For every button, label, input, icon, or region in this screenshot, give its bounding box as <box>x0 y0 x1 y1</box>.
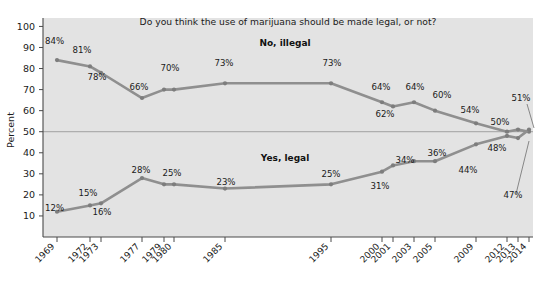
y-axis-title: Percent <box>5 112 16 148</box>
data-point <box>380 170 384 174</box>
data-point <box>527 128 531 132</box>
point-value-label: 84% <box>45 36 64 46</box>
series-label-no-illegal: No, illegal <box>259 38 310 48</box>
point-value-label: 62% <box>375 109 394 119</box>
data-point <box>433 159 437 163</box>
y-tick-label-80: 80 <box>23 63 35 74</box>
point-value-label: 50% <box>490 117 509 127</box>
data-point <box>474 121 478 125</box>
data-point <box>505 130 509 134</box>
series-label-yes-legal: Yes, legal <box>260 153 310 163</box>
data-point <box>433 109 437 113</box>
data-point <box>162 87 166 91</box>
point-value-label: 81% <box>72 45 91 55</box>
data-point <box>99 201 103 205</box>
point-value-label: 64% <box>371 82 390 92</box>
point-value-label: 16% <box>92 207 111 217</box>
point-value-label: 60% <box>432 90 451 100</box>
plot-area-background <box>43 18 533 237</box>
data-point <box>516 128 520 132</box>
data-point <box>505 134 509 138</box>
point-value-label: 73% <box>214 58 233 68</box>
data-point <box>223 186 227 190</box>
y-tick-label-50: 50 <box>23 126 35 137</box>
data-point <box>88 64 92 68</box>
point-value-label: 12% <box>45 203 64 213</box>
point-value-label: 28% <box>131 165 150 175</box>
y-tick-label-20: 20 <box>23 189 35 200</box>
data-point <box>172 182 176 186</box>
point-value-label: 25% <box>162 168 181 178</box>
data-point <box>55 58 59 62</box>
point-value-label: 47% <box>503 190 522 200</box>
point-value-label: 54% <box>460 105 479 115</box>
y-tick-label-40: 40 <box>23 147 35 158</box>
point-value-label: 23% <box>216 177 235 187</box>
data-point <box>329 182 333 186</box>
data-point <box>516 136 520 140</box>
data-point <box>380 100 384 104</box>
point-value-label: 31% <box>370 181 389 191</box>
point-value-label: 51% <box>511 93 530 103</box>
y-tick-label-70: 70 <box>23 84 35 95</box>
y-tick-label-10: 10 <box>23 210 35 221</box>
point-value-label: 48% <box>487 143 506 153</box>
point-value-label: 25% <box>321 169 340 179</box>
data-point <box>391 104 395 108</box>
point-value-label: 73% <box>322 58 341 68</box>
point-value-label: 66% <box>129 82 148 92</box>
point-value-label: 36% <box>427 148 446 158</box>
point-value-label: 15% <box>78 188 97 198</box>
point-value-label: 44% <box>458 165 477 175</box>
y-tick-label-90: 90 <box>23 42 35 53</box>
data-point <box>329 81 333 85</box>
point-value-label: 78% <box>87 72 106 82</box>
data-point <box>140 96 144 100</box>
point-value-label: 70% <box>160 63 179 73</box>
point-value-label: 34% <box>395 155 414 165</box>
point-value-label: 64% <box>405 82 424 92</box>
chart-title: Do you think the use of marijuana should… <box>140 16 437 27</box>
chart-svg: 102030405060708090100 196919721973197719… <box>0 0 541 287</box>
data-point <box>223 81 227 85</box>
y-tick-label-30: 30 <box>23 168 35 179</box>
y-tick-label-100: 100 <box>17 21 35 32</box>
marijuana-legalization-line-chart: 102030405060708090100 196919721973197719… <box>0 0 541 287</box>
data-point <box>172 87 176 91</box>
data-point <box>474 142 478 146</box>
data-point <box>162 182 166 186</box>
data-point <box>412 100 416 104</box>
data-point <box>140 176 144 180</box>
y-tick-label-60: 60 <box>23 105 35 116</box>
